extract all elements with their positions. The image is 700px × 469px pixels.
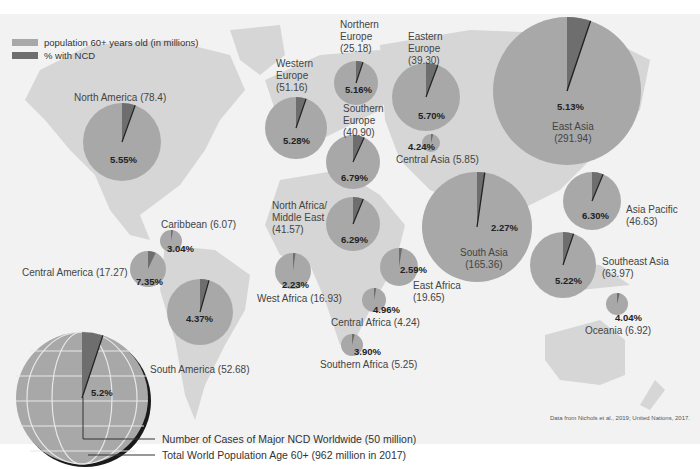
- label-western-europe: Western Europe (51.16): [276, 58, 313, 94]
- pct-east-africa: 2.59%: [400, 264, 427, 275]
- label-north-africa-middle-east: North Africa/ Middle East (41.57): [272, 200, 327, 236]
- label-east-asia: East Asia (291.94): [552, 121, 594, 145]
- label-southeast-asia: Southeast Asia (63.97): [602, 256, 669, 280]
- world-population-label: Total World Population Age 60+ (962 mill…: [162, 449, 406, 461]
- label-southern-africa: Southern Africa (5.25): [320, 359, 417, 371]
- label-asia-pacific: Asia Pacific (46.63): [626, 204, 678, 228]
- pct-caribbean: 3.04%: [167, 243, 194, 254]
- label-south-america: South America (52.68): [150, 364, 250, 376]
- legend-item-population: population 60+ years old (in millions): [12, 36, 198, 49]
- ncd-swatch: [12, 52, 38, 59]
- legend-population-label: population 60+ years old (in millions): [44, 37, 198, 48]
- pct-southeast-asia: 5.22%: [555, 275, 582, 286]
- pct-southern-europe: 6.79%: [341, 172, 368, 183]
- pct-central-africa: 4.96%: [373, 304, 400, 315]
- source-note: Data from Nichols et al., 2019; United N…: [550, 415, 690, 421]
- pct-north-america: 5.55%: [110, 154, 137, 165]
- pct-central-asia: 4.24%: [408, 141, 435, 152]
- label-central-africa: Central Africa (4.24): [331, 317, 420, 329]
- population-swatch: [12, 39, 38, 46]
- pct-asia-pacific: 6.30%: [582, 210, 609, 221]
- pct-south-america: 4.37%: [186, 313, 213, 324]
- pie-south-america: [167, 279, 233, 345]
- label-east-africa: East Africa (19.65): [413, 280, 461, 304]
- world-pct: 5.2%: [91, 387, 113, 398]
- pct-oceania: 4.04%: [615, 312, 642, 323]
- pct-central-america: 7.35%: [136, 276, 163, 287]
- world-globe-pie: [16, 332, 155, 467]
- pie-western-europe: [265, 97, 327, 159]
- label-west-africa: West Africa (16.93): [257, 293, 342, 305]
- label-south-asia: South Asia (165.36): [460, 247, 508, 271]
- label-eastern-europe: Eastern Europe (39.30): [408, 31, 442, 67]
- label-southern-europe: Southern Europe (40.90): [343, 103, 384, 139]
- pie-asia-pacific: [563, 172, 621, 230]
- pct-west-africa: 2.23%: [282, 279, 309, 290]
- pie-north-america: [83, 103, 161, 181]
- world-cases-label: Number of Cases of Major NCD Worldwide (…: [162, 433, 416, 445]
- label-central-america: Central America (17.27): [22, 267, 128, 279]
- label-northern-europe: Northern Europe (25.18): [340, 19, 379, 55]
- pct-western-europe: 5.28%: [283, 135, 310, 146]
- pie-southeast-asia: [530, 232, 596, 298]
- label-north-america: North America (78.4): [74, 92, 166, 104]
- legend: population 60+ years old (in millions) %…: [12, 36, 198, 62]
- legend-ncd-label: % with NCD: [44, 50, 95, 61]
- pct-south-asia: 2.27%: [491, 222, 518, 233]
- legend-item-ncd: % with NCD: [12, 49, 198, 62]
- label-oceania: Oceania (6.92): [585, 325, 651, 337]
- pct-eastern-europe: 5.70%: [418, 110, 445, 121]
- pct-northern-europe: 5.16%: [345, 84, 372, 95]
- pct-north-africa-middle-east: 6.29%: [341, 234, 368, 245]
- label-central-asia: Central Asia (5.85): [396, 154, 479, 166]
- label-caribbean: Caribbean (6.07): [161, 219, 236, 231]
- pct-east-asia: 5.13%: [557, 101, 584, 112]
- pct-southern-africa: 3.90%: [354, 346, 381, 357]
- pie-northern-europe: [334, 61, 378, 105]
